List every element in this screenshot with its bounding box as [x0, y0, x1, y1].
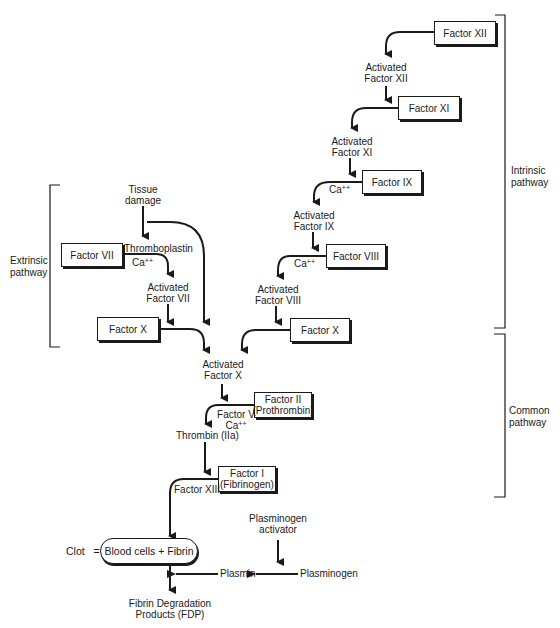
- factor-xii-box: Factor XII: [434, 21, 496, 45]
- factor-xi-box: Factor XI: [398, 96, 460, 120]
- clot-pill: Blood cells + Fibrin: [100, 538, 198, 564]
- activated-factor-ix-label: Activated Factor IX: [284, 210, 344, 232]
- factor-viii-label: Factor VIII: [333, 251, 379, 262]
- factor-x-extrinsic-label: Factor X: [109, 324, 147, 335]
- extrinsic-pathway-label: Extrinsic pathway: [10, 255, 48, 279]
- calcium-label-ix: Ca++: [329, 184, 350, 195]
- factor-i-box: Factor I (Fibrinogen): [218, 466, 276, 492]
- plasminogen-activator-label: Plasminogen activator: [248, 513, 308, 535]
- intrinsic-pathway-label: Intrinsic pathway: [511, 165, 548, 189]
- activated-factor-xii-label: Activated Factor XII: [356, 62, 416, 84]
- factor-ii-box: Factor II (Prothrombin): [254, 392, 312, 418]
- activated-factor-viii-label: Activated Factor VIII: [246, 284, 310, 306]
- clot-content: Blood cells + Fibrin: [105, 545, 194, 557]
- fdp-label: Fibrin Degradation Products (FDP): [128, 598, 212, 620]
- coagulation-cascade-diagram: Factor XII Activated Factor XII Factor X…: [0, 0, 560, 628]
- tissue-damage-label: Tissue damage: [118, 184, 168, 206]
- plasmin-label: Plasmin: [220, 568, 256, 579]
- calcium-label-viii: Ca++: [294, 258, 315, 269]
- factor-viii-box: Factor VIII: [326, 244, 386, 268]
- activated-factor-x-label: Activated Factor X: [193, 359, 253, 381]
- activated-factor-vii-label: Activated Factor VII: [138, 282, 198, 304]
- factor-x-intrinsic-box: Factor X: [290, 318, 350, 342]
- factor-xiii-label: Factor XIII: [174, 484, 220, 495]
- activated-factor-xi-label: Activated Factor XI: [322, 136, 382, 158]
- thromboplastin-label: Thromboplastin: [124, 243, 193, 254]
- factor-ix-box: Factor IX: [362, 170, 422, 194]
- common-pathway-label: Common pathway: [509, 405, 550, 429]
- factor-vii-box: Factor VII: [61, 243, 123, 267]
- factor-xi-label: Factor XI: [409, 103, 450, 114]
- plasminogen-label: Plasminogen: [300, 568, 358, 579]
- factor-vii-label: Factor VII: [70, 250, 113, 261]
- calcium-label-vii: Ca++: [132, 257, 153, 268]
- factor-v-label: Factor V Ca++: [216, 409, 256, 431]
- factor-x-extrinsic-box: Factor X: [97, 317, 159, 341]
- thrombin-label: Thrombin (IIa): [176, 430, 239, 441]
- clot-label: Clot =: [66, 546, 100, 557]
- factor-ix-label: Factor IX: [372, 177, 413, 188]
- factor-x-intrinsic-label: Factor X: [301, 325, 339, 336]
- factor-xii-label: Factor XII: [443, 28, 486, 39]
